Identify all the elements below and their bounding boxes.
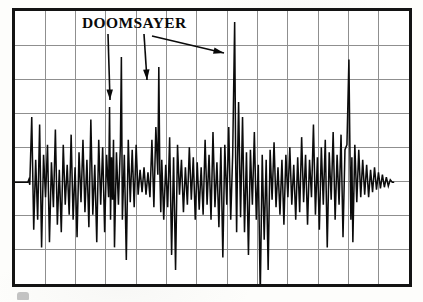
plot-area bbox=[15, 11, 409, 284]
waveform-trace bbox=[15, 22, 394, 284]
chart-frame bbox=[12, 8, 412, 287]
waveform-trace-layer bbox=[15, 11, 409, 284]
figure-page: DOOMSAYER bbox=[0, 0, 423, 302]
page-smudge bbox=[17, 292, 29, 300]
